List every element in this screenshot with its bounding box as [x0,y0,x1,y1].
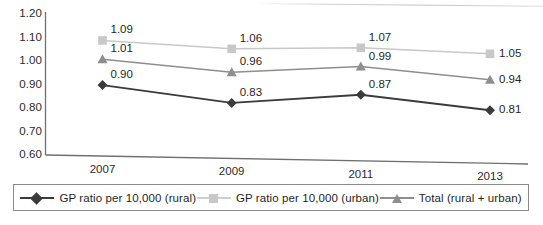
legend-item-rural[interactable]: GP ratio per 10,000 (rural) [20,192,196,204]
diamond-marker-2007 [98,80,108,90]
data-label-diamond-2007: 0.90 [111,69,133,81]
data-label-diamond-2009: 0.83 [240,87,262,99]
data-label-triangle-2011: 0.99 [369,51,391,63]
data-label-square-2011: 1.07 [369,32,391,44]
triangle-marker-icon [380,192,414,204]
data-label-square-2009: 1.06 [240,33,262,45]
chart-plot-area: 1.201.101.000.900.800.700.60 20072009201… [0,0,543,180]
legend-item-total[interactable]: Total (rural + urban) [380,192,522,204]
data-label-triangle-2013: 0.94 [499,74,521,86]
series-square [98,36,494,58]
data-label-diamond-2013: 0.81 [499,104,521,116]
square-marker-2011 [357,43,366,52]
data-label-square-2007: 1.09 [111,24,133,36]
data-label-square-2013: 1.05 [499,48,521,60]
square-marker-2013 [486,50,495,59]
chart-legend: GP ratio per 10,000 (rural) GP ratio per… [13,184,529,211]
series-diamond [98,80,496,115]
triangle-marker-2007 [98,54,108,63]
square-marker-2009 [227,45,236,54]
x-tick-2013: 2013 [460,171,520,183]
diamond-marker-2013 [485,105,495,115]
chart-figure: 1.201.101.000.900.800.700.60 20072009201… [0,0,543,225]
legend-label-total: Total (rural + urban) [419,192,522,204]
legend-label-urban: GP ratio per 10,000 (urban) [236,192,379,204]
series-line [103,59,491,79]
diamond-marker-2011 [356,90,366,100]
legend-label-rural: GP ratio per 10,000 (rural) [59,192,196,204]
series-layer [98,36,496,115]
series-line [103,40,491,53]
x-tick-2009: 2009 [202,166,262,178]
diamond-marker-2009 [227,98,237,108]
x-tick-2011: 2011 [331,169,391,181]
square-marker-icon [197,192,231,204]
series-line [103,85,491,110]
square-marker-2007 [98,36,107,45]
legend-item-urban[interactable]: GP ratio per 10,000 (urban) [197,192,379,204]
data-label-triangle-2007: 1.01 [111,43,133,55]
data-label-diamond-2011: 0.87 [369,79,391,91]
x-tick-2007: 2007 [73,164,133,176]
series-triangle [98,54,496,83]
x-axis-line [46,155,529,164]
chart-canvas [0,0,543,180]
data-label-triangle-2009: 0.96 [240,56,262,68]
diamond-marker-icon [20,192,54,204]
